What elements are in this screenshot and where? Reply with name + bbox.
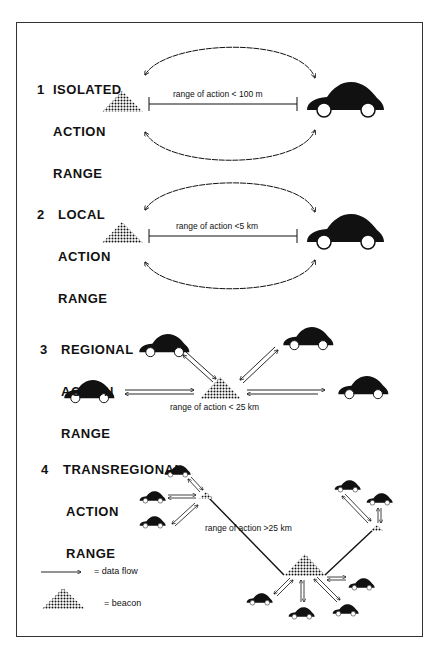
curved-arrow-top xyxy=(145,47,315,78)
section-4-title: 4TRANSREGIONAL ACTION RANGE xyxy=(41,435,183,575)
car-icon xyxy=(333,604,359,616)
beacon-icon xyxy=(200,377,241,399)
curved-arrow-bottom xyxy=(145,130,315,160)
car-icon xyxy=(367,493,393,505)
car-icon xyxy=(307,214,384,249)
beacon-icon xyxy=(371,525,383,531)
section-2-title: 2LOCAL ACTION RANGE xyxy=(37,180,111,320)
legend-data-flow-label: = data flow xyxy=(94,566,138,576)
car-icon xyxy=(335,480,361,492)
beacon-icon xyxy=(284,554,326,576)
range-label-1: range of action < 100 m xyxy=(173,89,263,99)
car-icon xyxy=(247,593,273,605)
section-2 xyxy=(102,183,384,289)
beacon-legend-icon xyxy=(42,588,85,609)
range-label-2: range of action <5 km xyxy=(176,221,258,231)
car-icon xyxy=(349,578,375,590)
beacon-icon xyxy=(199,492,214,499)
legend xyxy=(41,572,85,609)
car-icon xyxy=(307,82,384,117)
range-label-3: range of action < 25 km xyxy=(170,402,259,412)
car-icon xyxy=(139,334,189,357)
car-icon xyxy=(338,376,388,399)
range-label-4: range of action >25 km xyxy=(205,523,292,533)
car-icon xyxy=(283,327,333,350)
section-3-title: 3REGIONAL ACTION RANGE xyxy=(40,315,134,455)
legend-beacon-label: = beacon xyxy=(104,598,141,608)
car-icon xyxy=(289,607,315,619)
section-1-title: 1ISOLATED ACTION RANGE xyxy=(37,55,122,195)
section-1 xyxy=(102,47,384,160)
